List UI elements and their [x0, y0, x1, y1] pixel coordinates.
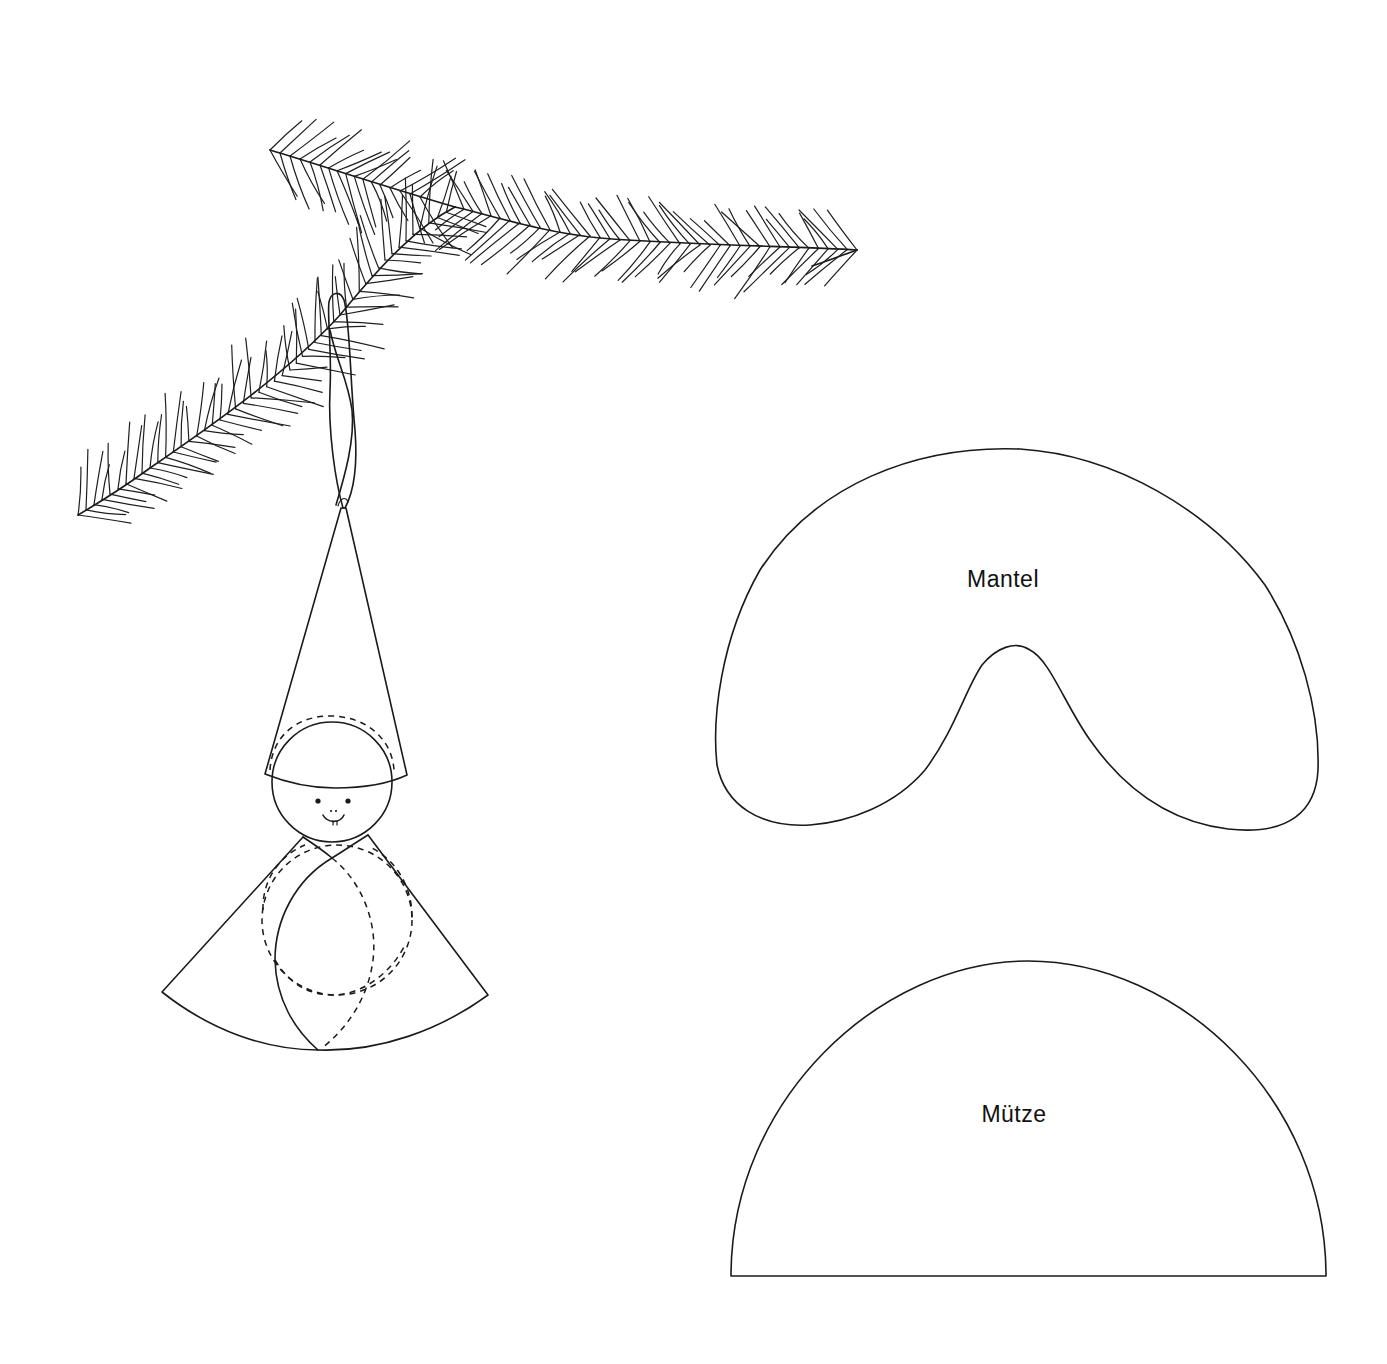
fir-needle — [246, 338, 251, 398]
right-eye — [345, 798, 350, 803]
fir-needle — [318, 277, 321, 336]
fir-needle — [410, 160, 465, 194]
fir-needle — [379, 268, 422, 274]
fir-needle — [134, 426, 142, 479]
fir-needle — [204, 431, 243, 435]
fir-needle — [220, 384, 222, 420]
fir-needle — [464, 182, 482, 214]
fir-needle — [189, 441, 235, 447]
fir-needle — [575, 240, 620, 272]
coat-flap-front — [275, 835, 368, 1050]
nose-dot — [330, 810, 332, 812]
fir-needle — [353, 295, 400, 299]
fir-needle — [360, 216, 378, 268]
fir-needle — [158, 463, 214, 475]
fir-needle — [204, 378, 219, 431]
fir-needle — [78, 467, 81, 515]
fir-needle — [658, 244, 680, 274]
fir-needle — [334, 322, 383, 325]
fir-needle — [142, 473, 179, 484]
fir-needle — [267, 387, 324, 407]
fir-needle — [181, 401, 183, 446]
fir-needle — [181, 447, 218, 462]
fir-needle — [744, 247, 790, 291]
fir-needle — [86, 510, 126, 515]
fir-needle — [595, 241, 630, 277]
mantel-label: Mantel — [967, 566, 1039, 592]
fir-needle — [354, 160, 396, 177]
left-eye — [315, 798, 320, 803]
fir-needle — [470, 223, 520, 263]
fir-needle — [399, 195, 403, 247]
fir-needle — [628, 199, 650, 242]
fir-needle — [315, 278, 317, 342]
fir-needle — [318, 291, 328, 328]
fir-needle — [274, 381, 322, 392]
fir-needle — [329, 168, 349, 224]
fir-branch-illustration — [78, 119, 857, 523]
fir-needle — [399, 247, 459, 255]
fir-needle — [722, 212, 760, 247]
fir-needle — [746, 211, 770, 247]
fir-needle — [270, 121, 302, 150]
fir-needle — [755, 206, 780, 247]
fir-needle — [228, 360, 242, 414]
fir-needle — [290, 156, 309, 209]
coat-cone — [162, 835, 488, 1050]
gnome-ornament — [162, 508, 488, 1050]
fir-needle — [385, 260, 421, 263]
muetze-pattern: Mütze — [731, 961, 1326, 1276]
fir-needle — [339, 260, 353, 299]
fir-needle — [328, 326, 366, 328]
fir-needle — [602, 241, 640, 271]
fir-needle — [572, 237, 600, 271]
fir-needle — [363, 141, 410, 179]
mouth-smile — [323, 815, 344, 821]
fir-needle — [315, 343, 361, 351]
fir-needle — [243, 403, 297, 413]
fir-needles — [78, 119, 857, 523]
head-hidden-outline — [270, 716, 394, 770]
fir-needle — [266, 350, 267, 386]
fir-needle — [86, 449, 88, 509]
fir-needle — [232, 345, 236, 409]
fir-needle — [212, 384, 215, 426]
fir-needle — [296, 309, 297, 363]
fir-needle — [126, 422, 130, 484]
fir-needle — [517, 232, 560, 259]
fir-needle — [337, 152, 381, 171]
fir-needle — [660, 206, 691, 245]
fir-needle — [596, 198, 630, 241]
fir-needle — [320, 130, 361, 165]
fir-needle — [94, 505, 129, 513]
fir-needle — [280, 153, 296, 200]
fir-needle — [714, 246, 750, 285]
muetze-label: Mütze — [981, 1101, 1046, 1127]
fir-needle — [78, 515, 131, 523]
fir-needle — [765, 207, 799, 248]
fir-needle — [785, 248, 809, 283]
fir-needle — [563, 239, 610, 282]
fir-needle — [220, 420, 261, 430]
fir-needle — [142, 415, 145, 473]
hat-cone — [265, 508, 407, 788]
fir-needle — [622, 243, 660, 283]
fir-needle — [197, 383, 204, 437]
fir-needle — [150, 422, 158, 468]
fir-needle — [465, 220, 510, 260]
fir-needle — [282, 376, 321, 381]
fir-needle — [118, 451, 125, 489]
fir-needle — [371, 151, 408, 182]
fir-needle — [303, 356, 345, 358]
hanging-loop — [329, 293, 356, 508]
fir-needle — [371, 182, 386, 221]
fir-needle — [94, 451, 103, 504]
fir-needle — [673, 212, 710, 246]
fir-needle — [684, 245, 710, 271]
fir-needle — [173, 452, 216, 462]
fir-needle — [392, 254, 431, 256]
coat-flap-hidden-edge — [322, 858, 374, 1048]
fir-needle — [150, 468, 187, 478]
fir-needle — [110, 494, 146, 502]
mantel-outline — [716, 449, 1318, 830]
